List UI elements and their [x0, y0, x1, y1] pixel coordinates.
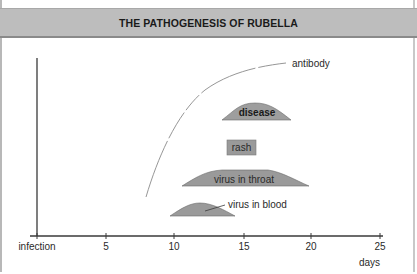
tick-label-15: 15	[238, 241, 250, 252]
antibody-label: antibody	[292, 58, 330, 69]
virus-in-throat-label: virus in throat	[214, 174, 274, 185]
rash-label: rash	[232, 142, 251, 153]
x-axis-unit-label: days	[359, 257, 380, 268]
virus-in-blood-label: virus in blood	[228, 199, 287, 210]
virus-in-blood-shape	[170, 203, 235, 216]
tick-label-5: 5	[103, 241, 109, 252]
tick-label-10: 10	[168, 241, 180, 252]
pathogenesis-chart: infection 5 10 15 20 25 days antibody di…	[0, 0, 417, 274]
tick-label-20: 20	[305, 241, 317, 252]
disease-label: disease	[239, 107, 276, 118]
tick-label-25: 25	[374, 241, 386, 252]
tick-label-infection: infection	[18, 241, 55, 252]
